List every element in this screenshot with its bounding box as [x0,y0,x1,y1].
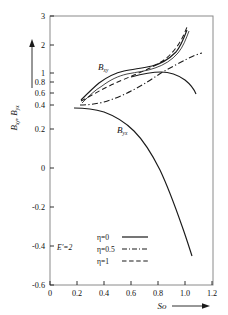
chart-svg: 3 2 1 0.8 0.6 0.4 0.2 0 -0.2 -0.4 -0.6 0… [0,0,228,315]
x-axis-title: So [158,301,168,311]
x-tick-label: 0.6 [126,289,136,298]
x-axis-arrow-icon [172,303,210,308]
legend-group-label: E'=2 [56,243,72,252]
y-tick-label: 3 [41,12,45,21]
y-tick-label: 0 [41,164,45,173]
x-tick-label: 0.8 [153,289,163,298]
x-tick-label: 1.0 [180,289,190,298]
y-axis-title: Bxy, Byx [9,105,20,131]
legend-item-label: η=0 [97,233,109,242]
y-axis-title-group: Bxy, Byx [9,39,35,131]
x-tick-label: 0.4 [99,289,109,298]
y-tick-label: 0.6 [35,89,45,98]
x-axis-title-group: So [158,301,211,311]
legend-item-label: η=0.5 [97,245,115,254]
y-tick-label: 0.4 [35,101,45,110]
y-tick-label: 0.8 [35,78,45,87]
y-tick-label: 2 [41,41,45,50]
y-tick-label: -0.6 [32,281,45,290]
x-tick-label: 0.2 [72,289,82,298]
x-axis-tick-labels: 0 0.2 0.4 0.6 0.8 1.0 1.2 [48,289,217,298]
y-tick-label: 1 [41,69,45,78]
x-tick-label: 1.2 [207,289,217,298]
y-tick-label: -0.4 [32,242,45,251]
y-tick-label: 0.2 [35,125,45,134]
legend-item-label: η=1 [97,257,109,266]
y-axis-tick-labels: 3 2 1 0.8 0.6 0.4 0.2 0 -0.2 -0.4 -0.6 [32,12,45,290]
y-tick-label: -0.2 [32,203,45,212]
chart-figure: 3 2 1 0.8 0.6 0.4 0.2 0 -0.2 -0.4 -0.6 0… [0,0,228,315]
x-tick-label: 0 [48,289,52,298]
